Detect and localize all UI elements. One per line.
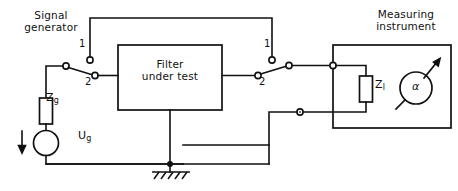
- output-selector-switch[interactable]: [222, 57, 333, 79]
- switch-left-terminal-2[interactable]: [92, 72, 98, 78]
- switch-right-terminal-2-label: 2: [259, 76, 266, 88]
- current-direction-arrow: [19, 131, 26, 153]
- ug-label-subscript: g: [86, 134, 91, 143]
- zl-label: Zl: [375, 79, 385, 92]
- switch-left-terminal-2-label: 2: [85, 76, 92, 88]
- zg-label-subscript: g: [54, 96, 59, 105]
- zl-label-subscript: l: [383, 83, 385, 92]
- switch-left-terminal-1[interactable]: [87, 57, 93, 63]
- switch-left-terminal-1-label: 1: [79, 38, 86, 50]
- zg-label: Zg: [46, 92, 59, 105]
- switch-right-pivot[interactable]: [286, 62, 292, 68]
- zl-label-main: Z: [375, 78, 383, 91]
- switch-right-terminal-1[interactable]: [269, 57, 275, 63]
- signal-generator-title: Signal generator: [14, 9, 88, 34]
- alpha-meter-label: α: [412, 81, 419, 94]
- ug-label: Ug: [78, 130, 92, 143]
- measuring-instrument-title: Measuring instrument: [360, 8, 452, 33]
- switch-right-terminal-1-label: 1: [264, 38, 271, 50]
- measuring-instrument-box: [333, 45, 451, 128]
- ug-source: [34, 131, 59, 156]
- circuit-diagram: Signal generator Measuring instrument Fi…: [0, 0, 458, 191]
- zl-resistor: [360, 76, 373, 102]
- instrument-terminal-top[interactable]: [330, 62, 336, 68]
- filter-box-title: Filter under test: [117, 58, 223, 83]
- meter-needle-icon: [424, 59, 440, 79]
- zg-label-main: Z: [46, 91, 54, 104]
